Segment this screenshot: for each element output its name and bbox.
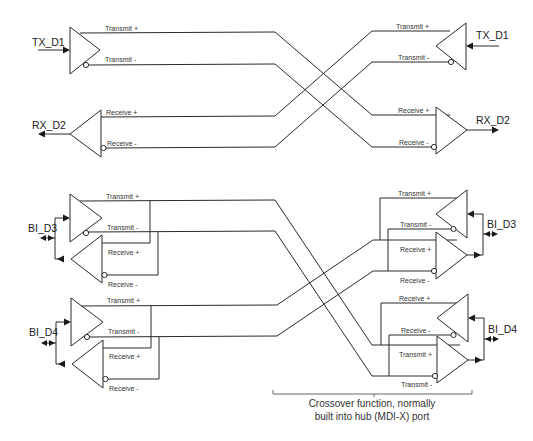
- arrow-left-icon: [57, 256, 64, 263]
- caption-line-2: built into hub (MDI-X) port: [315, 411, 430, 422]
- arrow-right-icon: [474, 252, 481, 259]
- label-receive-minus: Receive -: [399, 139, 429, 146]
- right-bi-d4-transceiver: BI_D4: [381, 294, 517, 383]
- arrow-right-icon: [64, 319, 71, 326]
- wire-receive-plus-to-transmit-plus: [101, 31, 450, 117]
- receiver-triangle: [70, 110, 101, 157]
- label-receive-plus: Receive +: [106, 109, 137, 116]
- inverting-bubble: [451, 332, 456, 337]
- bidirectional-junction: [473, 214, 483, 255]
- bidirectional-junction: [474, 318, 484, 360]
- arrow-right-icon: [475, 357, 482, 364]
- arrow-left-icon: [41, 340, 47, 346]
- port-label-bi-d3-right: BI_D3: [487, 218, 516, 230]
- label-receive-minus: Receive -: [109, 385, 139, 392]
- wire-receive-minus-to-transmit-minus: [106, 62, 448, 148]
- port-label-rx-d2-left: RX_D2: [32, 119, 66, 131]
- label-receive-plus: Receive +: [108, 249, 139, 256]
- right-tx-driver: TX_D1: [436, 23, 509, 70]
- arrow-left-icon: [485, 336, 491, 342]
- port-label-bi-d4-left: BI_D4: [29, 326, 58, 338]
- crossover-bracket: [273, 390, 472, 394]
- label-transmit-plus: Transmit +: [105, 25, 138, 32]
- inverting-bubble: [103, 376, 108, 381]
- label-transmit-minus: Transmit -: [105, 56, 137, 63]
- arrow-left-icon: [484, 231, 490, 237]
- receiver-triangle: [71, 235, 102, 283]
- inverting-bubble: [83, 230, 88, 235]
- top-pair-wires: [80, 31, 450, 148]
- receiver-triangle: [436, 232, 467, 279]
- inverting-bubble: [451, 226, 456, 231]
- right-bi-d3-transceiver: BI_D3: [380, 190, 516, 279]
- label-transmit-minus: Transmit -: [398, 54, 430, 61]
- arrow-right-icon: [492, 231, 498, 237]
- arrow-left-icon: [40, 235, 46, 241]
- arrow-left-icon: [468, 315, 475, 322]
- port-label-tx-d1-left: TX_D1: [32, 36, 65, 48]
- wire-transmit-plus-to-receive-plus: [80, 32, 450, 115]
- port-label-bi-d3-left: BI_D3: [28, 222, 57, 234]
- port-label-tx-d1-right: TX_D1: [476, 29, 509, 41]
- left-bi-d3-transceiver: BI_D3: [28, 194, 158, 283]
- arrow-left-icon: [466, 43, 473, 50]
- label-transmit-minus: Transmit -: [107, 224, 139, 231]
- left-rx-receiver: RX_D2: [32, 110, 106, 157]
- caption-line-1: Crossover function, normally: [309, 398, 436, 409]
- left-tx-driver: TX_D1: [32, 27, 100, 74]
- arrow-right-icon: [492, 127, 499, 134]
- diagram-svg: TX_D1 RX_D2 Transmit + Transmit - Receiv…: [0, 0, 533, 441]
- arrow-left-icon: [467, 211, 474, 218]
- wire-d4-minus-to-d3-minus: [89, 271, 436, 337]
- wire-transmit-minus-to-receive-minus: [89, 64, 436, 147]
- inverting-bubble: [83, 62, 88, 67]
- receiver-triangle: [72, 340, 103, 388]
- label-receive-plus: Receive +: [398, 107, 429, 114]
- inverting-bubble: [432, 373, 437, 378]
- label-receive-plus: Receive +: [109, 353, 140, 360]
- label-transmit-plus: Transmit +: [107, 297, 140, 304]
- label-receive-minus: Receive -: [107, 140, 137, 147]
- arrow-right-icon: [49, 340, 55, 346]
- arrow-right-icon: [493, 336, 499, 342]
- label-transmit-plus: Transmit +: [396, 23, 429, 30]
- arrow-right-icon: [63, 215, 70, 222]
- label-transmit-plus: Transmit +: [398, 190, 431, 197]
- receiver-triangle: [436, 107, 467, 154]
- left-bi-d4-transceiver: BI_D4: [29, 298, 159, 388]
- inverting-bubble: [84, 334, 89, 339]
- label-transmit-minus: Transmit -: [400, 221, 432, 228]
- receiver-triangle: [437, 336, 468, 383]
- label-transmit-minus: Transmit -: [108, 328, 140, 335]
- loop-receive-plus: [103, 305, 151, 348]
- port-label-bi-d4-right: BI_D4: [488, 323, 517, 335]
- label-receive-plus: Receive +: [400, 246, 431, 253]
- inverting-bubble: [431, 144, 436, 149]
- label-receive-plus: Receive +: [399, 295, 430, 302]
- inverting-bubble: [431, 268, 436, 273]
- label-transmit-minus: Transmit -: [401, 381, 433, 388]
- label-receive-minus: Receive -: [400, 277, 430, 284]
- arrow-left-icon: [38, 131, 45, 138]
- label-receive-minus: Receive -: [401, 327, 431, 334]
- label-transmit-plus: Transmit +: [106, 193, 139, 200]
- label-transmit-plus: Transmit +: [399, 351, 432, 358]
- inverting-bubble: [101, 145, 106, 150]
- right-rx-receiver: RX_D2: [431, 107, 510, 154]
- arrow-right-icon: [48, 235, 54, 241]
- port-label-rx-d2-right: RX_D2: [476, 114, 510, 126]
- loop-receive-plus: [102, 201, 150, 243]
- arrow-left-icon: [58, 361, 65, 368]
- crossover-diagram: TX_D1 RX_D2 Transmit + Transmit - Receiv…: [0, 0, 533, 441]
- inverting-bubble: [102, 272, 107, 277]
- inverting-bubble: [448, 59, 453, 64]
- label-receive-minus: Receive -: [108, 281, 138, 288]
